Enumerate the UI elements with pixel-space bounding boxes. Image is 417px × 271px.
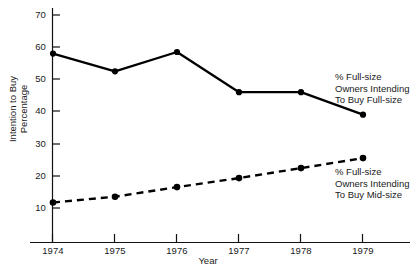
x-tick-label-1975: 1975 (95, 245, 135, 256)
y-axis-title-line-1: Intention to Buy (7, 76, 19, 142)
annotation-fullsize-line-2: Owners Intending (335, 83, 409, 95)
chart-figure: 70 60 50 40 30 20 10 1974 1975 1976 1977… (0, 0, 417, 271)
series-fullsize-markers (50, 49, 366, 118)
x-axis-ticks (53, 234, 363, 243)
annotation-midsize-line-3: To Buy Mid-size (335, 189, 409, 201)
series-fullsize-line (53, 52, 363, 115)
y-axis-ticks (53, 15, 61, 208)
annotation-midsize-line-1: % Full-size (335, 166, 409, 178)
annotation-fullsize-line-1: % Full-size (335, 71, 409, 83)
x-axis-title: Year (178, 255, 238, 266)
y-axis-title: Intention to Buy Percentage (5, 44, 31, 174)
chart-plot-area (0, 0, 417, 271)
y-axis-title-line-2: Percentage (18, 85, 30, 134)
series-annotation-fullsize: % Full-size Owners Intending To Buy Full… (335, 71, 409, 106)
annotation-fullsize-line-3: To Buy Full-size (335, 94, 409, 106)
x-tick-label-1979: 1979 (343, 245, 383, 256)
series-midsize-line (53, 158, 363, 202)
y-tick-label-70: 70 (20, 9, 46, 20)
series-annotation-midsize: % Full-size Owners Intending To Buy Mid-… (335, 166, 409, 201)
annotation-midsize-line-2: Owners Intending (335, 178, 409, 190)
y-tick-label-10: 10 (20, 202, 46, 213)
x-tick-label-1974: 1974 (33, 245, 73, 256)
x-tick-label-1978: 1978 (281, 245, 321, 256)
series-midsize-markers (50, 155, 367, 206)
